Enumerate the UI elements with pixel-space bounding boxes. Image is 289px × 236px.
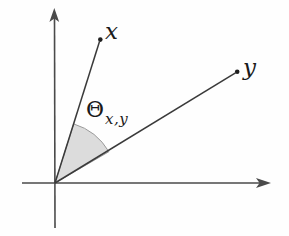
vertical-axis-line [55, 16, 56, 228]
angle-label: Θ x,y [86, 99, 127, 121]
vector-angle-figure: x y Θ x,y [0, 0, 289, 236]
figure-canvas [0, 0, 289, 236]
vector-y-endpoint-dot [235, 70, 240, 75]
vector-x-label: x [105, 20, 118, 43]
vector-y-label: y [243, 56, 256, 79]
angle-wedge-sector [55, 124, 109, 183]
theta-symbol: Θ [86, 99, 104, 121]
vector-x-endpoint-dot [98, 37, 103, 42]
theta-subscript: x,y [105, 112, 128, 127]
